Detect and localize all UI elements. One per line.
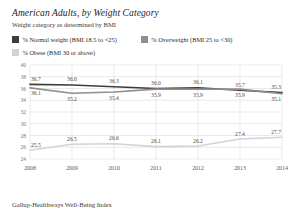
legend-item-normal-weight[interactable]: % Normal weight (BMI 18.5 to <25) [12,36,117,43]
data-label: 26.2 [193,138,203,144]
chart-source: Gallup-Healthways Well-Being Index [12,201,112,208]
x-axis-tick: 2010 [108,165,120,171]
plot-area: 2426283032343638402008200920102011201220… [10,61,288,171]
x-axis-tick: 2013 [234,165,246,171]
legend-row-2: % Obese (BMI 30 or above) [12,47,288,58]
x-axis-tick: 2009 [66,165,78,171]
legend-label-obese: % Obese (BMI 30 or above) [23,49,96,56]
data-label: 35.3 [271,84,281,90]
y-axis-tick: 38 [20,74,26,80]
data-label: 35.9 [193,92,203,98]
y-axis-tick: 26 [20,144,26,150]
data-label: 35.2 [67,96,77,102]
data-label: 36.3 [109,78,119,84]
legend-item-obese[interactable]: % Obese (BMI 30 or above) [12,49,95,56]
chart-legend: % Normal weight (BMI 18.5 to <25) % Over… [12,34,288,58]
y-axis-tick: 36 [20,86,26,92]
legend-swatch-obese [12,49,19,56]
legend-swatch-normal-weight [12,36,19,43]
x-axis-tick: 2008 [24,165,36,171]
data-label: 27.4 [235,131,245,137]
data-label: 35.7 [235,82,245,88]
legend-label-normal-weight: % Normal weight (BMI 18.5 to <25) [23,36,117,43]
x-axis-tick: 2014 [276,165,288,171]
y-axis-tick: 30 [20,121,26,127]
data-label: 27.7 [271,129,281,135]
data-label: 26.5 [67,136,77,142]
data-label: 36.1 [31,90,41,96]
data-label: 25.5 [31,142,41,148]
data-label: 35.9 [235,92,245,98]
x-axis-tick: 2011 [150,165,161,171]
y-axis-tick: 28 [20,133,26,139]
data-label: 35.9 [151,92,161,98]
data-label: 36.7 [31,76,41,82]
data-label: 26.6 [109,135,119,141]
chart-subtitle: Weight category as determined by BMI [12,21,288,28]
data-label: 36.1 [193,79,203,85]
chart-title: American Adults, by Weight Category [12,8,288,18]
data-label: 35.1 [271,96,281,102]
y-axis-tick: 32 [20,109,26,115]
chart-card: American Adults, by Weight Category Weig… [0,0,298,213]
data-label: 35.4 [109,95,119,101]
legend-row-1: % Normal weight (BMI 18.5 to <25) % Over… [12,34,288,45]
line-chart: 2426283032343638402008200920102011201220… [10,61,288,173]
legend-label-overweight: % Overweight (BMI 25 to <30) [151,36,232,43]
x-axis-tick: 2012 [192,165,204,171]
data-label: 36.6 [67,76,77,82]
data-label: 26.1 [151,138,161,144]
y-axis-tick: 34 [20,97,26,103]
y-axis-tick: 24 [20,156,26,162]
data-label: 36.0 [151,80,161,86]
y-axis-tick: 40 [20,62,26,68]
legend-swatch-overweight [141,36,148,43]
legend-item-overweight[interactable]: % Overweight (BMI 25 to <30) [141,36,233,43]
